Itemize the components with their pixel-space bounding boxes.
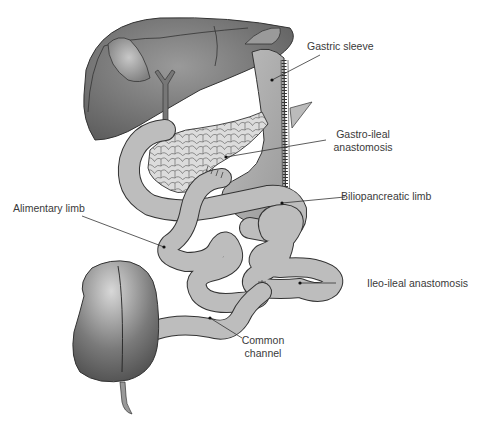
label-biliopancreatic-limb: Biliopancreatic limb — [341, 190, 431, 203]
label-common-channel: Common channel — [238, 334, 288, 360]
label-ileo-ileal-anastomosis: Ileo-ileal anastomosis — [367, 277, 468, 290]
anatomy-diagram: Gastric sleeve Gastro-ileal anastomosis … — [0, 0, 480, 426]
label-gastric-sleeve: Gastric sleeve — [307, 40, 374, 53]
label-line: Common — [238, 334, 288, 347]
label-line: channel — [238, 347, 288, 360]
label-line: Gastro-ileal — [328, 128, 398, 141]
excised-wedge — [290, 102, 312, 128]
label-alimentary-limb: Alimentary limb — [13, 202, 85, 215]
appendix — [120, 382, 132, 414]
label-line: anastomosis — [328, 141, 398, 154]
label-gastro-ileal-anastomosis: Gastro-ileal anastomosis — [328, 128, 398, 154]
cecum — [73, 261, 159, 382]
